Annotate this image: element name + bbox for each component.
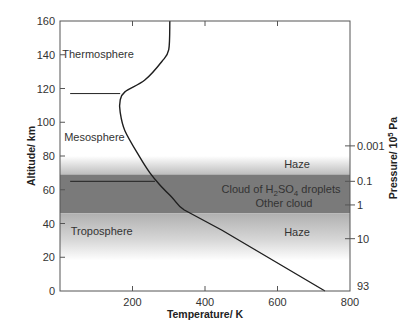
region-label-troposphere: Troposphere [71, 225, 133, 237]
y-tick-label: 120 [37, 83, 55, 95]
altitude-temperature-chart: 0204060801001201401602004006008000.0010.… [0, 0, 416, 334]
band-label-other-cloud: Other cloud [256, 197, 313, 209]
region-label-thermosphere: Thermosphere [62, 48, 134, 60]
y-tick-label: 60 [43, 184, 55, 196]
region-label-mesosphere: Mesosphere [64, 131, 125, 143]
y-tick-label: 160 [37, 15, 55, 27]
y-axis-title: Altitude/ km [25, 126, 37, 186]
y2-tick-label: 10 [357, 233, 369, 245]
x-tick-label: 600 [268, 296, 286, 308]
x-axis-title: Temperature/ K [167, 308, 244, 320]
y-tick-label: 100 [37, 116, 55, 128]
y2-tick-label: 0.001 [357, 140, 385, 152]
band-label-lower-haze: Haze [284, 226, 310, 238]
y2-tick-label: 1 [357, 199, 363, 211]
x-tick-label: 800 [341, 296, 359, 308]
band-label-upper-haze: Haze [284, 158, 310, 170]
x-tick-label: 200 [123, 296, 141, 308]
y2-axis-title: Pressure/ 105 Pa [386, 117, 399, 200]
y-tick-label: 0 [49, 285, 55, 297]
y-tick-label: 140 [37, 49, 55, 61]
y-tick-label: 20 [43, 251, 55, 263]
x-tick-label: 400 [196, 296, 214, 308]
y-tick-label: 80 [43, 150, 55, 162]
y-tick-label: 40 [43, 218, 55, 230]
y2-tick-label: 0.1 [357, 175, 372, 187]
y2-tick-label: 93 [357, 280, 369, 292]
